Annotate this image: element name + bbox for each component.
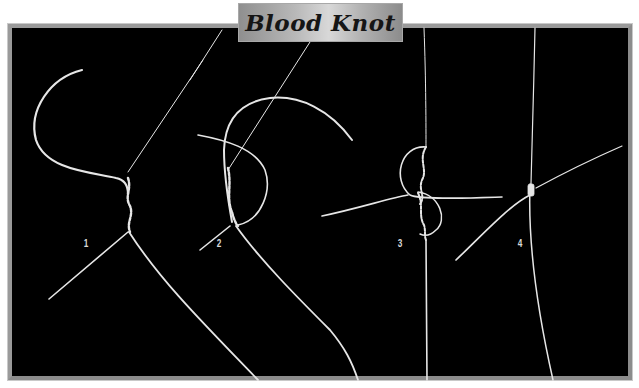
step-label-3: 3 [398, 237, 403, 249]
step-label-4: 4 [518, 237, 523, 249]
step-label-2: 2 [217, 237, 222, 249]
knot-step-3-drawing [322, 28, 502, 380]
knot-step-4-drawing [456, 28, 622, 380]
diagram-title: Blood Knot [245, 9, 396, 36]
knot-illustration [0, 0, 639, 388]
title-banner: Blood Knot [239, 4, 402, 41]
knot-step-2-drawing [190, 30, 358, 380]
step-label-1: 1 [84, 237, 89, 249]
knot-step-1-drawing [34, 60, 258, 380]
